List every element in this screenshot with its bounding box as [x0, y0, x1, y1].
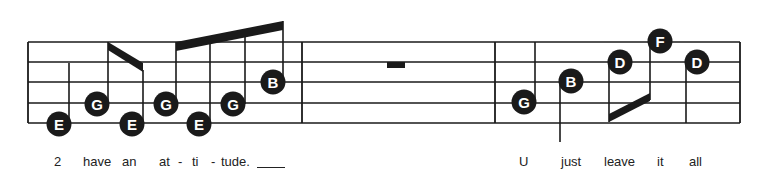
note-letter: E — [194, 116, 204, 133]
note-g: G — [154, 92, 179, 117]
note-e: E — [187, 112, 212, 137]
staff-lines — [28, 42, 740, 123]
note-letter: G — [91, 96, 103, 113]
note-letter: G — [160, 96, 172, 113]
note-b: B — [261, 70, 286, 95]
beam — [108, 42, 143, 72]
note-letter: B — [268, 74, 279, 91]
note-letter: G — [227, 96, 239, 113]
note-b: B — [559, 69, 584, 94]
beam — [609, 93, 650, 122]
note-g: G — [512, 90, 537, 115]
note-e: E — [120, 112, 145, 137]
note-letter: D — [615, 54, 626, 71]
note-f: F — [648, 29, 673, 54]
note-letter: E — [54, 116, 64, 133]
note-e: E — [47, 112, 72, 137]
beam — [176, 21, 283, 51]
note-g: G — [221, 92, 246, 117]
music-staff: EGEGEGBGBDFD — [0, 0, 777, 185]
note-letter: B — [566, 73, 577, 90]
note-d: D — [608, 50, 633, 75]
whole-rest — [387, 62, 405, 68]
note-letter: D — [692, 54, 703, 71]
note-d: D — [685, 50, 710, 75]
note-g: G — [85, 92, 110, 117]
note-letter: E — [127, 116, 137, 133]
note-letter: F — [655, 33, 664, 50]
rests — [387, 62, 405, 68]
note-letter: G — [518, 94, 530, 111]
